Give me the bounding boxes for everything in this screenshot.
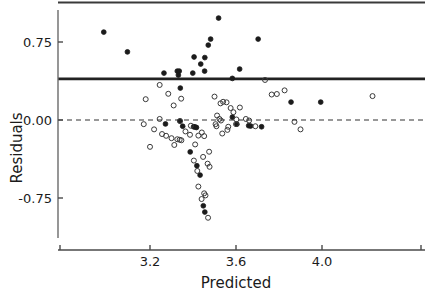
data-point-open	[148, 144, 153, 149]
data-point-open	[141, 122, 146, 127]
data-point-open	[157, 116, 162, 121]
data-point-filled	[180, 124, 185, 129]
data-point-open	[201, 154, 206, 159]
data-point-open	[199, 197, 204, 202]
data-point-open	[370, 94, 375, 99]
data-point-filled	[259, 124, 264, 129]
data-point-filled	[201, 203, 206, 208]
data-point-filled	[194, 163, 199, 168]
y-tick-label-1: 0.00	[23, 113, 52, 128]
data-point-filled	[216, 16, 221, 21]
y-tick-label-0: 0.75	[23, 35, 52, 50]
data-point-open	[231, 110, 236, 115]
data-point-open	[193, 142, 198, 147]
data-point-open	[196, 184, 201, 189]
residual-plot-figure: 3.23.64.00.750.00-0.75 Predicted Residua…	[0, 0, 425, 295]
data-point-filled	[237, 67, 242, 72]
data-point-open	[195, 168, 200, 173]
data-point-filled	[194, 125, 199, 130]
data-point-open	[152, 127, 157, 132]
data-point-open	[224, 100, 229, 105]
data-point-open	[274, 92, 279, 97]
data-point-filled	[125, 49, 130, 54]
data-point-filled	[256, 37, 261, 42]
y-axis-label: Residuals	[8, 112, 26, 183]
data-point-open	[169, 136, 174, 141]
data-point-open	[191, 158, 196, 163]
data-point-open	[171, 103, 176, 108]
x-axis-label: Predicted	[201, 274, 271, 292]
data-point-open	[225, 127, 230, 132]
scatter-plot-canvas: 3.23.64.00.750.00-0.75 Predicted Residua…	[0, 0, 425, 295]
data-point-open	[212, 94, 217, 99]
data-point-filled	[206, 43, 211, 48]
data-point-filled	[202, 55, 207, 60]
data-point-filled	[178, 86, 183, 91]
y-tick-label-2: -0.75	[18, 191, 52, 206]
x-tick-label-2: 4.0	[312, 254, 333, 269]
data-point-filled	[188, 150, 193, 155]
data-point-filled	[318, 100, 323, 105]
data-point-open	[253, 124, 258, 129]
data-point-filled	[162, 71, 167, 76]
data-point-open	[207, 149, 212, 154]
data-points-group	[101, 16, 375, 221]
reference-lines-group	[58, 3, 425, 121]
data-point-filled	[202, 210, 207, 215]
data-point-open	[269, 92, 274, 97]
data-point-open	[179, 96, 184, 101]
data-point-open	[237, 105, 242, 110]
data-point-open	[187, 132, 192, 137]
x-tick-label-1: 3.6	[226, 254, 247, 269]
data-point-open	[298, 127, 303, 132]
data-point-open	[183, 129, 188, 134]
data-point-open	[220, 131, 225, 136]
data-point-open	[202, 134, 207, 139]
data-point-open	[206, 215, 211, 220]
x-tick-label-0: 3.2	[140, 254, 161, 269]
data-point-filled	[176, 73, 181, 78]
data-point-filled	[289, 100, 294, 105]
data-point-open	[172, 142, 177, 147]
data-point-filled	[192, 55, 197, 60]
data-point-filled	[163, 122, 168, 127]
data-point-filled	[248, 124, 253, 129]
data-point-filled	[208, 37, 213, 42]
data-point-filled	[190, 71, 195, 76]
data-point-filled	[230, 76, 235, 81]
data-point-open	[143, 97, 148, 102]
data-point-filled	[101, 30, 106, 35]
data-point-filled	[202, 69, 207, 74]
data-point-open	[199, 130, 204, 135]
axes-group: 3.23.64.00.750.00-0.75	[18, 10, 425, 269]
data-point-filled	[198, 62, 203, 67]
data-point-open	[157, 82, 162, 87]
data-point-open	[282, 88, 287, 93]
data-point-open	[166, 91, 171, 96]
